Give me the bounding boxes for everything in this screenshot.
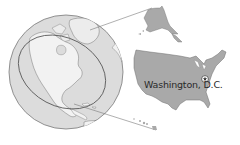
city-label-washington-dc: Washington, D.C. — [144, 80, 223, 90]
leader-line-top — [90, 8, 152, 30]
locator-map — [0, 0, 240, 145]
alaska-shape — [144, 6, 178, 34]
hudson-bay-shape — [57, 45, 67, 55]
south-america-shape — [84, 121, 106, 136]
aleutian-islands-shape — [138, 30, 144, 35]
globe — [5, 15, 123, 136]
alaska-panhandle-shape — [172, 34, 182, 42]
